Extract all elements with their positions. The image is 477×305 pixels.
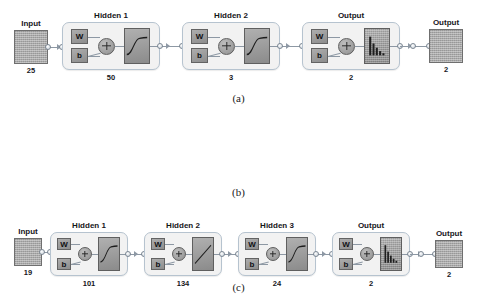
layer-title: Hidden 1: [62, 11, 160, 20]
panel-caption: (a): [0, 92, 477, 104]
connector-arrow: [166, 43, 170, 49]
panel-caption: (c): [0, 281, 477, 293]
connector-wire: [235, 46, 244, 47]
output-label: Output: [415, 18, 477, 27]
panel-b: Input19Hidden 1101WbHidden 2134WbHidden …: [0, 110, 477, 192]
panel-a: Input25Hidden 150WbHidden 23WbOutput2WbO…: [0, 0, 477, 92]
input-block: [14, 30, 48, 64]
connector-node: [277, 43, 283, 49]
transfer-function-block: [364, 28, 390, 64]
connector-wire: [208, 37, 220, 38]
summation-node: [338, 38, 355, 55]
connector-node: [45, 44, 51, 50]
weight-block: W: [191, 29, 208, 44]
summation-node: [218, 38, 235, 55]
connector-wire: [88, 37, 100, 38]
connector-node: [157, 43, 163, 49]
weight-block: W: [311, 29, 328, 44]
bias-block: b: [191, 48, 208, 63]
layer-value: 2: [302, 73, 400, 82]
weight-block: W: [71, 29, 88, 44]
summation-node: [98, 38, 115, 55]
input-label: Input: [2, 19, 60, 28]
connector-wire: [355, 46, 364, 47]
transfer-function-block: [124, 28, 150, 64]
bias-block: b: [71, 48, 88, 63]
layer-title: Output: [302, 11, 400, 20]
panel-c: Input6Hidden 1131WbHidden 2131WbHidden 3…: [0, 205, 477, 287]
layer-value: 3: [182, 73, 280, 82]
panel-caption: (b): [0, 186, 477, 198]
transfer-function-block: [244, 28, 270, 64]
layer-title: Hidden 2: [182, 11, 280, 20]
connector-node: [410, 43, 416, 49]
connector-wire: [328, 37, 340, 38]
connector-wire: [115, 46, 124, 47]
connector-arrow: [286, 43, 290, 49]
layer-value: 50: [62, 73, 160, 82]
bias-block: b: [311, 48, 328, 63]
input-value: 25: [2, 66, 60, 75]
output-block: [429, 29, 463, 63]
output-value: 2: [415, 65, 477, 74]
